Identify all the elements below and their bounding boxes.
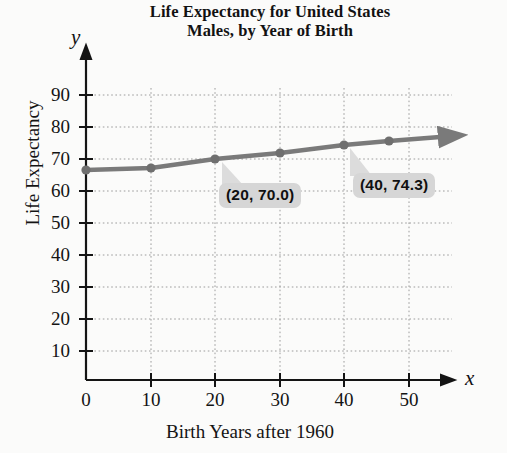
data-point-marker: [210, 154, 219, 163]
chart-figure: Life Expectancy for United States Males,…: [0, 0, 507, 453]
data-point-marker: [81, 165, 90, 174]
y-axis-title: Life Expectancy: [22, 68, 44, 258]
annotation-callout: (40, 74.3): [353, 173, 435, 198]
data-point-marker: [384, 136, 393, 145]
x-tick-label: 40: [324, 389, 364, 411]
vertical-gridlines: [151, 88, 409, 380]
x-tick-label: 0: [66, 389, 106, 411]
x-tick-label: 20: [195, 389, 235, 411]
x-tick-label: 10: [131, 389, 171, 411]
data-point-marker: [146, 163, 155, 172]
x-tick-label: 50: [389, 389, 429, 411]
y-tick-label: 20: [26, 308, 70, 330]
x-tick-label: 30: [260, 389, 300, 411]
callout-tail-b: [350, 148, 372, 176]
annotation-callout: (20, 70.0): [219, 183, 301, 208]
plot-area: [0, 0, 507, 453]
y-tick-label: 10: [26, 340, 70, 362]
callout-tails: [222, 148, 372, 186]
horizontal-gridlines: [86, 95, 452, 351]
data-point-marker: [275, 148, 284, 157]
x-axis-title: Birth Years after 1960: [60, 421, 440, 443]
y-tick-label: 30: [26, 276, 70, 298]
x-axis-variable-label: x: [465, 366, 474, 391]
y-axis-variable-label: y: [71, 25, 80, 50]
data-point-marker: [339, 140, 348, 149]
